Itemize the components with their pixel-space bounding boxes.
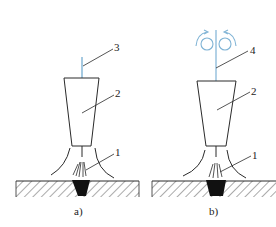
leader-3-a	[83, 49, 113, 66]
caption-b: b)	[209, 206, 218, 217]
label-4-b: 4	[250, 45, 256, 56]
torch-nozzle-a	[64, 78, 99, 146]
gas-flow-right-b	[227, 150, 246, 178]
label-1-a: 1	[115, 147, 121, 158]
gas-flow-left-a	[51, 148, 70, 175]
panel-a	[16, 49, 139, 197]
gas-flow-left-b	[183, 150, 205, 176]
label-1-b: 1	[252, 150, 258, 161]
torch-nozzle-b	[197, 81, 236, 146]
leader-4-b	[216, 51, 248, 68]
label-3-a: 3	[114, 42, 120, 53]
roller-right	[219, 38, 231, 50]
leader-1-b	[220, 156, 251, 172]
arc-b	[209, 163, 222, 178]
roller-left	[201, 38, 213, 50]
welding-diagram	[0, 0, 276, 227]
leader-1-a	[86, 154, 114, 170]
panel-b	[152, 30, 276, 197]
label-2-a: 2	[115, 88, 121, 99]
arc-a	[73, 162, 86, 177]
label-2-b: 2	[251, 86, 257, 97]
caption-a: a)	[74, 206, 83, 217]
